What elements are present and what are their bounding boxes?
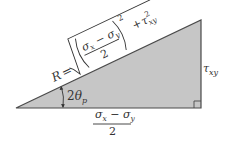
horizontal-side-label: σx − σy 2 <box>93 108 135 138</box>
svg-text:σx − σy: σx − σy <box>95 108 135 123</box>
mohr-triangle-diagram: 2θp τxy σx − σy 2 R= σx − σy 2 2 + <box>0 0 230 148</box>
svg-text:τxy: τxy <box>203 62 219 77</box>
svg-text:2: 2 <box>116 13 124 23</box>
svg-text:2: 2 <box>109 125 116 138</box>
tau-xy-label: τxy <box>203 62 219 77</box>
svg-text:2: 2 <box>98 47 110 62</box>
